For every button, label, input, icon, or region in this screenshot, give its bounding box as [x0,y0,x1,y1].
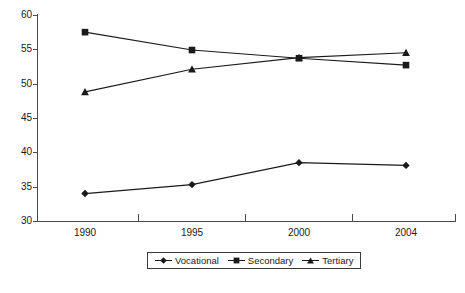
legend-line-secondary [228,256,245,265]
series-tertiary [81,49,410,95]
series-layer [0,0,465,293]
series-secondary [82,29,410,69]
line-chart: 60 55 50 45 40 35 30 1990 1995 2000 2004… [0,0,465,293]
legend-label: Tertiary [322,255,353,266]
triangle-marker-icon [307,257,314,264]
legend-line-vocational [155,256,172,265]
legend-item-vocational: Vocational [155,255,219,266]
legend-line-tertiary [302,256,319,265]
legend-label: Vocational [175,255,219,266]
chart-legend: Vocational Secondary Tertiary [147,252,361,269]
diamond-marker-icon [160,257,167,264]
legend-item-tertiary: Tertiary [302,255,353,266]
series-vocational [81,159,409,197]
square-marker-icon [233,257,240,264]
legend-item-secondary: Secondary [228,255,293,266]
legend-label: Secondary [248,255,293,266]
